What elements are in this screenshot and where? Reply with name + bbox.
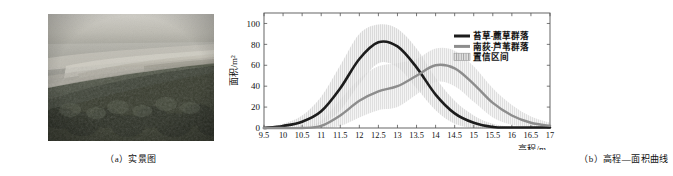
y-tick-label: 20 xyxy=(251,102,261,112)
x-axis-title: 高程/m xyxy=(518,143,546,150)
y-tick-label: 100 xyxy=(247,19,261,29)
y-tick-label: 60 xyxy=(251,60,261,70)
y-tick-label: 40 xyxy=(251,81,261,91)
y-axis-tick-labels: 020406080100 xyxy=(247,19,261,134)
x-tick-label: 13 xyxy=(393,131,401,140)
caption-panel-a: （a）实景图 xyxy=(48,152,214,165)
x-tick-label: 11 xyxy=(317,131,325,140)
svg-text:面积/m²: 面积/m² xyxy=(228,55,239,86)
y-tick-label: 80 xyxy=(251,40,261,50)
y-axis-title: 面积/m² xyxy=(228,55,239,86)
legend-swatch-3 xyxy=(454,53,470,60)
landscape-photo xyxy=(48,14,214,141)
legend-label-3: 置信区间 xyxy=(473,51,509,62)
x-tick-label: 15.5 xyxy=(485,131,500,140)
x-tick-label: 16.5 xyxy=(524,131,539,140)
panel-a-photograph: （a）实景图 xyxy=(0,0,264,176)
x-tick-label: 12 xyxy=(355,131,363,140)
x-tick-label: 11.5 xyxy=(333,131,347,140)
x-tick-label: 15 xyxy=(470,131,478,140)
legend-label-2: 南荻-芦苇群落 xyxy=(473,41,530,52)
x-tick-label: 12.5 xyxy=(371,131,386,140)
elevation-area-chart: 020406080100 9.51010.51111.51212.51313.5… xyxy=(228,0,564,150)
panel-b-chart: 020406080100 9.51010.51111.51212.51313.5… xyxy=(228,0,564,176)
x-tick-label: 10 xyxy=(279,131,287,140)
x-tick-label: 10.5 xyxy=(295,131,310,140)
caption-panel-b: （b）高程—面积曲线 xyxy=(456,152,673,165)
x-tick-label: 9.5 xyxy=(259,131,269,140)
x-tick-label: 14.5 xyxy=(447,131,462,140)
x-tick-label: 13.5 xyxy=(409,131,424,140)
x-tick-label: 16 xyxy=(508,131,516,140)
chart-legend: 苔草-藨草群落南荻-芦苇群落置信区间 xyxy=(454,30,529,62)
x-tick-label: 14 xyxy=(431,131,440,140)
legend-label-1: 苔草-藨草群落 xyxy=(473,30,530,41)
x-tick-label: 17 xyxy=(546,131,554,140)
x-axis-tick-labels: 9.51010.51111.51212.51313.51414.51515.51… xyxy=(259,131,554,140)
